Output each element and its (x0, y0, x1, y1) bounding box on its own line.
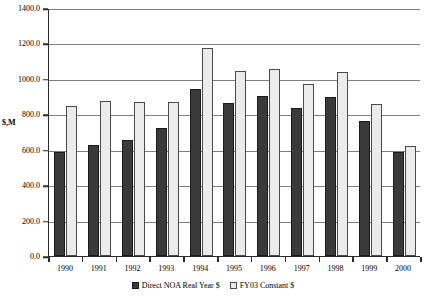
bar (88, 145, 99, 256)
dark-square-icon (132, 282, 139, 289)
x-axis-tick-label: 1999 (361, 264, 377, 273)
x-axis-tick-label: 1998 (327, 264, 343, 273)
y-axis-tick-label: 600.0 (22, 147, 40, 155)
bar-group (49, 9, 83, 256)
y-axis-tick-label: 800.0 (22, 111, 40, 119)
bar-group (150, 9, 184, 256)
x-axis-tick-label: 1994 (192, 264, 208, 273)
bar (168, 102, 179, 256)
x-axis-tick (149, 257, 151, 262)
bar (235, 71, 246, 256)
x-axis-tick-label: 1993 (158, 264, 174, 273)
y-axis-tick-label: 200.0 (22, 218, 40, 226)
x-axis-tick-label: 1995 (226, 264, 242, 273)
x-axis-tick (420, 257, 422, 262)
bar (122, 140, 133, 256)
bar-group (286, 9, 320, 256)
x-axis-tick (116, 257, 118, 262)
legend-label: FY03 Constant $ (240, 281, 295, 290)
bar (66, 106, 77, 256)
bar (371, 104, 382, 256)
y-axis-tick-label: 400.0 (22, 182, 40, 190)
bar (303, 84, 314, 256)
bar-chart: $,M 1400.01200.01000.0800.0600.0400.0200… (0, 0, 426, 298)
x-axis-tick-label: 1996 (260, 264, 276, 273)
x-axis-tick (386, 257, 388, 262)
bar (359, 121, 370, 256)
bar-group (320, 9, 354, 256)
x-axis-tick (183, 257, 185, 262)
legend-entry: FY03 Constant $ (230, 281, 295, 290)
x-axis-tick-label: 2000 (395, 264, 411, 273)
y-axis: 1400.01200.01000.0800.0600.0400.0200.00.… (0, 0, 48, 298)
y-axis-tick-label: 1200.0 (18, 40, 40, 48)
y-axis-tick-label: 0.0 (30, 253, 40, 261)
bar-group (83, 9, 117, 256)
light-square-icon (230, 282, 237, 289)
legend-label: Direct NOA Real Year $ (142, 281, 220, 290)
y-axis-tick-label: 1400.0 (18, 5, 40, 13)
bar (405, 146, 416, 256)
bar (134, 102, 145, 256)
x-axis-tick (285, 257, 287, 262)
plot-area (48, 9, 420, 257)
bar (223, 103, 234, 256)
x-axis-tick (352, 257, 354, 262)
x-axis-tick-label: 1997 (294, 264, 310, 273)
bar (202, 48, 213, 256)
bar-groups (49, 9, 420, 256)
bar-group (252, 9, 286, 256)
x-axis-tick (319, 257, 321, 262)
bar (190, 89, 201, 256)
bar (156, 128, 167, 256)
bar-group (387, 9, 421, 256)
y-axis-tick-label: 1000.0 (18, 76, 40, 84)
x-axis-tick (48, 257, 50, 262)
bar (393, 152, 404, 256)
bar (269, 69, 280, 256)
x-axis-tick (82, 257, 84, 262)
bar (100, 101, 111, 256)
x-axis-tick-label: 1992 (125, 264, 141, 273)
bar-group (117, 9, 151, 256)
x-axis-tick (251, 257, 253, 262)
bar (325, 97, 336, 256)
bar-group (218, 9, 252, 256)
bar-group (184, 9, 218, 256)
bar (257, 96, 268, 256)
bar (54, 152, 65, 256)
bar (337, 72, 348, 256)
x-axis-tick (217, 257, 219, 262)
bar-group (353, 9, 387, 256)
chart-legend: Direct NOA Real Year $FY03 Constant $ (0, 281, 426, 290)
bar (291, 108, 302, 256)
legend-entry: Direct NOA Real Year $ (132, 281, 220, 290)
x-axis-tick-label: 1991 (91, 264, 107, 273)
x-axis-tick-label: 1990 (57, 264, 73, 273)
